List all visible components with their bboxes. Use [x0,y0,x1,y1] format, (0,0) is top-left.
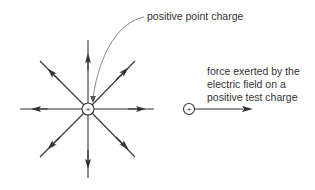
point-charge-label: positive point charge [147,10,243,23]
leader-line [93,17,144,98]
force-arrowhead-icon [242,106,253,112]
source-charge-sign: + [86,105,91,114]
force-label-line1: force exerted by the [207,65,300,78]
force-label-line3: positive test charge [207,91,297,104]
test-charge-sign: + [187,105,192,114]
force-label-line2: electric field on a [207,78,286,91]
